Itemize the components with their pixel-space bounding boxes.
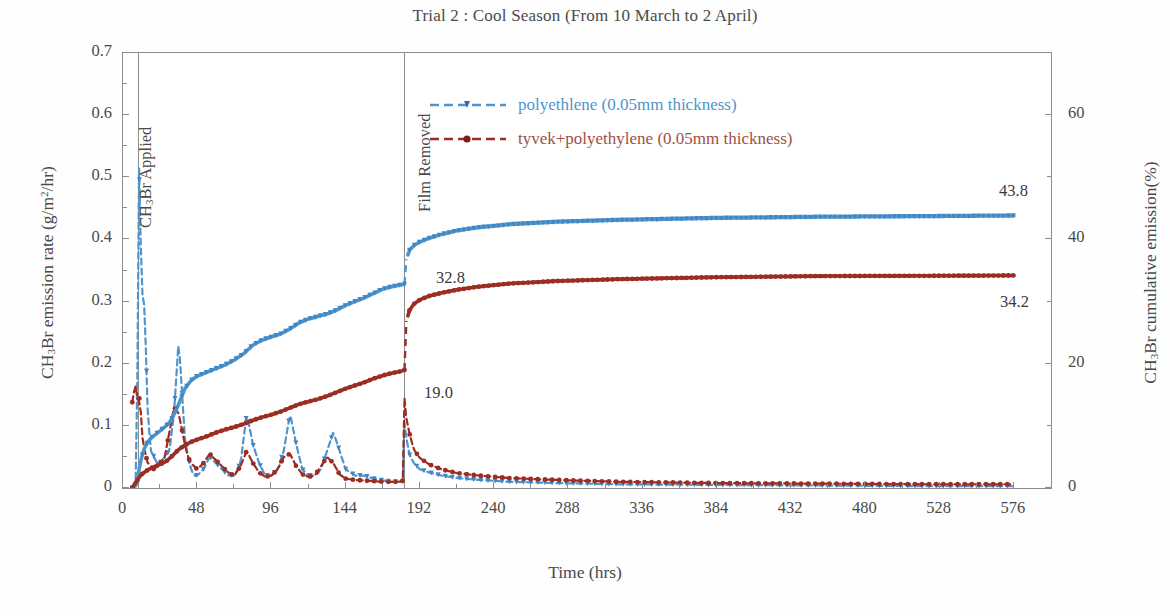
data-point [526,280,531,285]
x-minor-tick [902,484,903,489]
data-point [663,480,668,485]
data-point [557,478,562,483]
data-point [699,481,704,486]
data-point [224,427,229,432]
x-tick-label: 336 [607,498,677,518]
y-left-minor-tick [122,207,127,208]
data-point [744,275,749,280]
legend-marker-red-icon [430,132,506,146]
data-point [671,480,676,485]
data-point [621,479,626,484]
x-tick-label: 240 [458,498,528,518]
data-point [251,461,256,466]
y-left-tick-label: 0.7 [66,41,112,61]
data-point [244,450,249,455]
data-point [514,476,519,481]
data-point [479,473,484,478]
data-point [556,279,561,284]
data-point [689,275,694,280]
data-point [546,279,551,284]
data-point [998,482,1003,487]
data-point [155,463,160,468]
y-left-tick-label: 0.3 [66,290,112,310]
data-point [996,273,1001,278]
data-point [1011,273,1016,278]
data-point [793,274,798,279]
data-point [984,482,989,487]
data-point [422,458,427,463]
data-point [917,273,922,278]
data-point [329,459,334,464]
data-point [735,481,740,486]
data-point [784,481,789,486]
data-point [852,274,857,279]
data-point [150,465,155,470]
data-point [208,452,213,457]
legend-item-tyvek-polyethylene[interactable]: tyvek+polyethylene (0.05mm thickness) [430,122,792,156]
data-point [209,432,214,437]
y-left-tick [122,52,129,53]
data-point [843,274,848,279]
data-point [521,280,526,285]
data-point [500,475,505,480]
data-point [315,469,320,474]
data-point [948,482,953,487]
data-point [565,278,570,283]
data-point [365,478,370,483]
y-left-minor-tick [122,332,127,333]
data-point [130,400,135,405]
data-point [551,279,556,284]
data-point [590,278,595,283]
data-point [466,286,471,291]
data-point [798,274,803,279]
data-point [570,278,575,283]
data-point [605,277,610,282]
data-point [350,477,355,482]
data-point [437,291,442,296]
data-point [397,369,402,374]
data-point [614,479,619,484]
data-point [189,439,194,444]
data-point [279,459,284,464]
data-point [951,273,956,278]
data-point [912,273,917,278]
data-point [674,276,679,281]
data-point [179,445,184,450]
data-point [135,478,140,483]
data-point [336,445,341,450]
x-minor-tick [456,484,457,489]
data-point [655,276,660,281]
y-left-tick [122,114,129,115]
y-axis-left-title: CH3Br emission rate (g/m2/hr) [37,58,58,488]
data-point [144,456,149,461]
data-point [272,470,277,475]
data-point [947,273,952,278]
x-tick [1013,482,1014,489]
data-point [838,274,843,279]
data-point [402,368,407,373]
data-point [971,273,976,278]
chart-title: Trial 2 : Cool Season (From 10 March to … [0,6,1170,26]
data-point [763,274,768,279]
data-point [516,281,521,286]
data-point [571,478,576,483]
data-point [174,449,179,454]
legend-item-polyethlene[interactable]: polyethlene (0.05mm thickness) [430,88,792,122]
data-point [575,278,580,283]
data-point [543,477,548,482]
data-point [165,458,170,463]
data-point [301,472,306,477]
x-tick-label: 384 [681,498,751,518]
data-point [501,282,506,287]
data-point [363,380,368,385]
data-point [145,468,150,473]
data-point [862,274,867,279]
data-point [756,481,761,486]
data-point [955,482,960,487]
data-point [927,273,932,278]
data-point [714,275,719,280]
data-point [429,463,434,468]
data-point [464,472,469,477]
legend-label-polyethlene: polyethlene (0.05mm thickness) [518,95,737,115]
data-point [308,399,313,404]
